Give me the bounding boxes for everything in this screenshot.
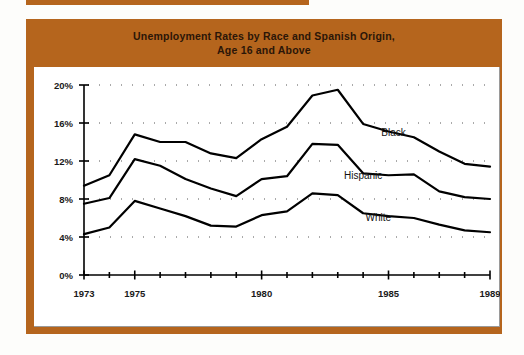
x-tick-label: 1973 [73,288,94,299]
series-label-black: Black [381,127,406,138]
series-line-black [84,90,490,186]
y-tick-label: 8% [59,194,73,205]
series-label-hispanic: Hispanic [344,170,382,181]
y-tick-label: 4% [59,232,73,243]
figure-frame: Unemployment Rates by Race and Spanish O… [26,19,502,334]
chart-title-band: Unemployment Rates by Race and Spanish O… [26,19,502,67]
x-tick-label: 1980 [251,288,272,299]
y-tick-label: 12% [54,156,74,167]
y-tick-label: 16% [54,118,74,129]
x-tick-label: 1985 [378,288,400,299]
x-tick-label: 1989 [479,288,500,299]
line-chart: 0%4%8%12%16%20%19731975198019851989Black… [34,67,500,327]
y-tick-label: 20% [54,80,74,91]
chart-title: Unemployment Rates by Race and Spanish O… [133,29,395,57]
top-orange-strip [26,0,309,5]
x-tick-label: 1975 [124,288,146,299]
plot-area: 0%4%8%12%16%20%19731975198019851989Black… [34,67,499,326]
series-label-white: White [366,212,392,223]
series-line-hispanic [84,144,490,204]
chart-canvas: 0%4%8%12%16%20%19731975198019851989Black… [34,67,500,327]
y-tick-label: 0% [59,270,73,281]
